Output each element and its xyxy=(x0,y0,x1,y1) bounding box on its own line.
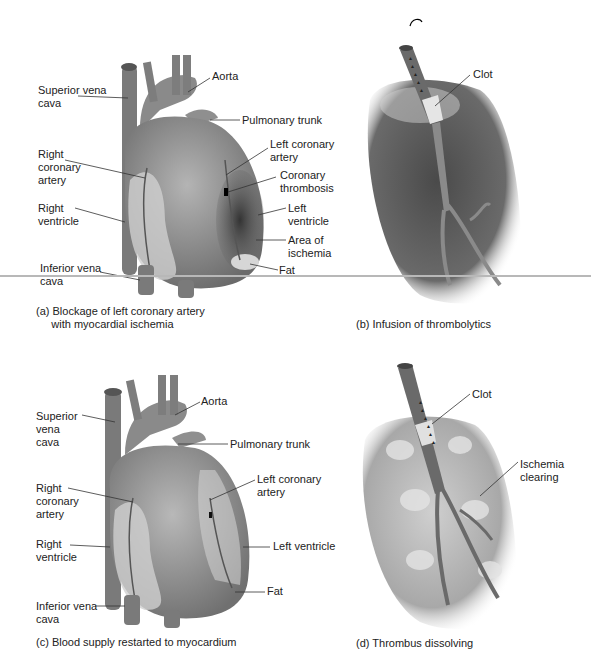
label-superior-vena-cava: Superior vena cava xyxy=(36,410,78,449)
label-right-ventricle: Right ventricle xyxy=(36,538,77,564)
label-inferior-vena-cava: Inferior vena cava xyxy=(36,600,97,626)
label-left-ventricle: Left ventricle xyxy=(288,202,329,228)
label-clot: Clot xyxy=(473,68,493,81)
label-clot: Clot xyxy=(472,388,492,401)
label-ischemia-clearing: Ischemia clearing xyxy=(520,458,564,484)
caption-a: (a) Blockage of left coronary artery wit… xyxy=(36,305,205,331)
svg-text:▲: ▲ xyxy=(423,415,428,421)
divider-line xyxy=(0,275,591,277)
label-left-coronary-artery: Left coronary artery xyxy=(270,138,334,164)
svg-text:▲: ▲ xyxy=(431,439,436,445)
svg-text:▲: ▲ xyxy=(408,55,413,61)
infusion-arrow-icon xyxy=(410,19,422,26)
panel-b-thrombolytic-infusion: ▲▲▲▲▲ Clot (b) Infusion of thrombolytics xyxy=(340,0,591,330)
label-area-of-ischemia: Area of ischemia xyxy=(288,234,331,260)
svg-text:▲: ▲ xyxy=(413,71,418,77)
label-right-coronary-artery: Right coronary artery xyxy=(36,482,79,521)
label-right-coronary-artery: Right coronary artery xyxy=(38,148,81,187)
label-superior-vena-cava: Superior vena cava xyxy=(38,84,107,110)
caption-c: (c) Blood supply restarted to myocardium xyxy=(36,636,237,649)
svg-text:▲: ▲ xyxy=(410,63,415,69)
label-fat: Fat xyxy=(267,585,283,598)
label-right-ventricle: Right ventricle xyxy=(38,202,79,228)
svg-text:▲: ▲ xyxy=(419,87,424,93)
caption-d: (d) Thrombus dissolving xyxy=(356,637,473,650)
svg-text:▲: ▲ xyxy=(418,399,423,405)
svg-text:▲: ▲ xyxy=(426,423,431,429)
label-aorta: Aorta xyxy=(201,395,227,408)
label-coronary-thrombosis: Coronary thrombosis xyxy=(280,169,334,195)
artery-illustration-b: ▲▲▲▲▲ xyxy=(340,0,591,330)
panel-d-thrombus-dissolving: ▲▲▲▲▲▲ Clot Ischemia clearing (d) Thromb… xyxy=(340,330,591,658)
label-pulmonary-trunk: Pulmonary trunk xyxy=(230,438,310,451)
artery-illustration-d: ▲▲▲▲▲▲ xyxy=(340,330,591,658)
label-pulmonary-trunk: Pulmonary trunk xyxy=(242,114,322,127)
label-left-coronary-artery: Left coronary artery xyxy=(257,473,321,499)
svg-text:▲: ▲ xyxy=(428,431,433,437)
panel-a-heart-blockage: Superior vena cava Aorta Pulmonary trunk… xyxy=(0,0,340,330)
svg-text:▲: ▲ xyxy=(416,79,421,85)
label-aorta: Aorta xyxy=(212,70,238,83)
label-left-ventricle: Left ventricle xyxy=(273,540,335,553)
panel-c-blood-supply-restarted: Superior vena cava Aorta Pulmonary trunk… xyxy=(0,330,340,658)
svg-text:▲: ▲ xyxy=(420,407,425,413)
